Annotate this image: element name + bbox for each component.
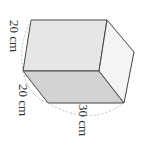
label-length: 30 cm (76, 104, 91, 136)
label-height: 20 cm (7, 20, 22, 52)
face-top (23, 20, 107, 71)
box-diagram: 20 cm 20 cm 30 cm (0, 0, 157, 157)
label-width: 20 cm (16, 84, 31, 116)
